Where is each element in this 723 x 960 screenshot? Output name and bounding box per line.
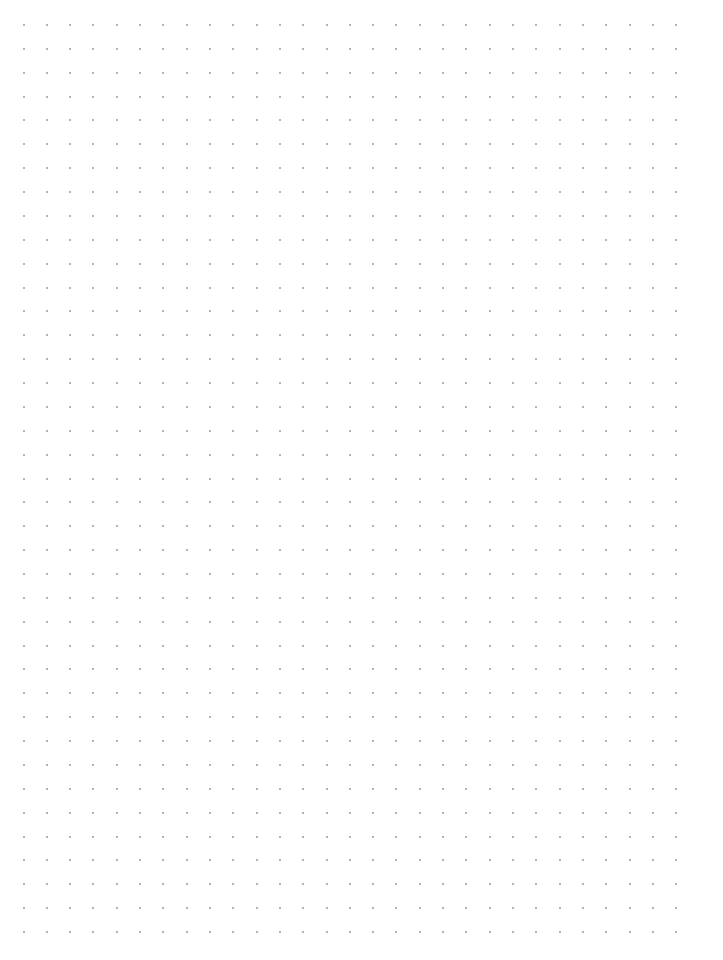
grid-dot	[186, 24, 188, 26]
grid-dot	[232, 263, 234, 265]
grid-dot	[629, 478, 631, 480]
grid-dot	[419, 48, 421, 50]
grid-dot	[395, 764, 397, 766]
grid-dot	[186, 883, 188, 885]
grid-dot	[512, 716, 514, 718]
grid-dot	[279, 525, 281, 527]
grid-dot	[489, 119, 491, 121]
grid-dot	[279, 573, 281, 575]
grid-dot	[279, 406, 281, 408]
grid-dot	[139, 812, 141, 814]
grid-dot	[209, 430, 211, 432]
grid-dot	[605, 454, 607, 456]
grid-dot	[139, 501, 141, 503]
grid-dot	[279, 167, 281, 169]
grid-dot	[232, 525, 234, 527]
grid-dot	[349, 72, 351, 74]
grid-dot	[256, 501, 258, 503]
grid-dot	[372, 549, 374, 551]
grid-dot	[326, 478, 328, 480]
grid-dot	[209, 334, 211, 336]
grid-dot	[232, 621, 234, 623]
grid-dot	[582, 525, 584, 527]
grid-dot	[232, 883, 234, 885]
grid-dot	[605, 167, 607, 169]
grid-dot	[116, 191, 118, 193]
grid-dot	[256, 478, 258, 480]
grid-dot	[92, 764, 94, 766]
grid-dot	[629, 287, 631, 289]
grid-dot	[162, 287, 164, 289]
grid-dot	[349, 478, 351, 480]
grid-dot	[605, 119, 607, 121]
grid-dot	[326, 907, 328, 909]
grid-dot	[116, 406, 118, 408]
grid-dot	[535, 931, 537, 933]
grid-dot	[419, 334, 421, 336]
grid-dot	[302, 263, 304, 265]
grid-dot	[559, 883, 561, 885]
grid-dot	[535, 430, 537, 432]
grid-dot	[116, 668, 118, 670]
grid-dot	[349, 883, 351, 885]
grid-dot	[69, 836, 71, 838]
grid-dot	[512, 621, 514, 623]
grid-dot	[302, 48, 304, 50]
grid-dot	[326, 48, 328, 50]
grid-dot	[652, 382, 654, 384]
grid-dot	[652, 573, 654, 575]
grid-dot	[372, 191, 374, 193]
grid-dot	[326, 96, 328, 98]
grid-dot	[512, 24, 514, 26]
grid-dot	[372, 167, 374, 169]
grid-dot	[209, 454, 211, 456]
grid-dot	[395, 788, 397, 790]
grid-dot	[69, 645, 71, 647]
grid-dot	[139, 478, 141, 480]
grid-dot	[23, 764, 25, 766]
grid-dot	[629, 263, 631, 265]
grid-dot	[116, 358, 118, 360]
grid-dot	[279, 692, 281, 694]
grid-dot	[326, 119, 328, 121]
grid-dot	[23, 740, 25, 742]
grid-dot	[92, 430, 94, 432]
grid-dot	[23, 668, 25, 670]
grid-dot	[535, 167, 537, 169]
grid-dot	[675, 119, 677, 121]
grid-dot	[326, 812, 328, 814]
grid-dot	[69, 143, 71, 145]
grid-dot	[465, 907, 467, 909]
grid-dot	[675, 692, 677, 694]
grid-dot	[92, 812, 94, 814]
grid-dot	[582, 287, 584, 289]
grid-dot	[139, 334, 141, 336]
grid-dot	[46, 263, 48, 265]
grid-dot	[582, 263, 584, 265]
grid-dot	[186, 143, 188, 145]
grid-dot	[23, 143, 25, 145]
grid-dot	[302, 430, 304, 432]
grid-dot	[279, 931, 281, 933]
grid-dot	[326, 430, 328, 432]
grid-dot	[395, 119, 397, 121]
grid-dot	[69, 931, 71, 933]
grid-dot	[582, 119, 584, 121]
grid-dot	[232, 716, 234, 718]
grid-dot	[116, 907, 118, 909]
grid-dot	[326, 406, 328, 408]
grid-dot	[675, 454, 677, 456]
grid-dot	[209, 788, 211, 790]
grid-dot	[92, 478, 94, 480]
grid-dot	[442, 263, 444, 265]
grid-dot	[326, 191, 328, 193]
grid-dot	[139, 836, 141, 838]
grid-dot	[162, 191, 164, 193]
grid-dot	[23, 478, 25, 480]
grid-dot	[559, 740, 561, 742]
grid-dot	[139, 931, 141, 933]
grid-dot	[629, 454, 631, 456]
grid-dot	[465, 668, 467, 670]
grid-dot	[209, 239, 211, 241]
grid-dot	[559, 764, 561, 766]
